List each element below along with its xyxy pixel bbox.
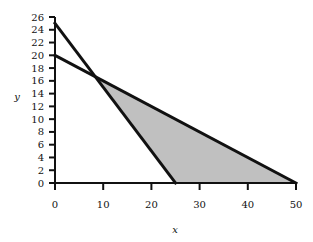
y-tick-label: 8 [38,126,44,137]
y-tick-label: 20 [31,50,44,61]
y-tick-label: 4 [38,152,44,163]
y-tick-label: 26 [31,12,44,23]
line-1 [55,23,176,183]
y-tick-label: 18 [31,63,44,74]
x-axis-label: x [172,224,178,235]
y-tick-label: 24 [31,24,44,35]
y-tick-label: 14 [31,88,44,99]
chart: 02468101214161820222426 01020304050 x y [0,0,313,242]
x-ticks: 01020304050 [52,183,303,210]
x-tick-label: 0 [52,199,58,210]
y-tick-label: 10 [31,114,44,125]
x-tick-label: 10 [97,199,110,210]
y-tick-label: 0 [38,178,44,189]
x-tick-label: 30 [193,199,206,210]
y-tick-label: 2 [38,165,44,176]
y-tick-label: 22 [31,37,44,48]
y-axis-label: y [13,91,20,102]
y-tick-label: 16 [31,75,44,86]
y-tick-label: 6 [38,139,44,150]
x-tick-label: 40 [241,199,254,210]
x-tick-label: 50 [290,199,303,210]
y-tick-label: 12 [31,101,44,112]
x-tick-label: 20 [145,199,158,210]
y-ticks: 02468101214161820222426 [31,12,55,189]
